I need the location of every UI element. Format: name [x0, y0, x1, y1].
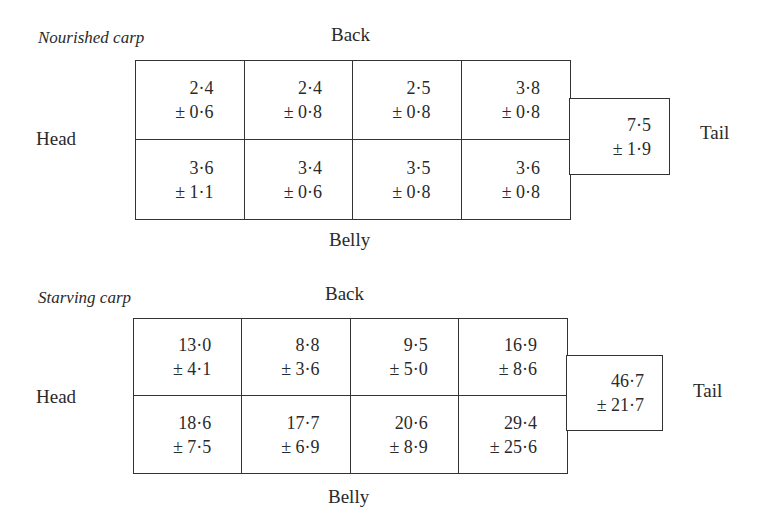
grid-cell: 8·8± 3·6 [242, 319, 350, 396]
grid-cell: 18·6± 7·5 [134, 396, 242, 473]
tail-label: Tail [693, 380, 722, 402]
back-label: Back [331, 24, 370, 46]
grid-cell: 2·4± 0·8 [245, 61, 354, 140]
tail-cell: 7·5± 1·9 [569, 98, 670, 175]
head-label: Head [36, 128, 76, 150]
head-label: Head [36, 386, 76, 408]
body-grid: 13·0± 4·1 8·8± 3·6 9·5± 5·0 16·9± 8·6 18… [133, 318, 568, 474]
tail-cell: 46·7± 21·7 [566, 355, 663, 431]
grid-cell: 13·0± 4·1 [134, 319, 242, 396]
belly-label: Belly [328, 486, 369, 508]
back-label: Back [325, 283, 364, 305]
tail-label: Tail [700, 122, 729, 144]
grid-cell: 9·5± 5·0 [351, 319, 459, 396]
grid-cell: 29·4± 25·6 [459, 396, 567, 473]
grid-cell: 3·6± 1·1 [136, 140, 245, 219]
grid-cell: 16·9± 8·6 [459, 319, 567, 396]
body-grid: 2·4± 0·6 2·4± 0·8 2·5± 0·8 3·8± 0·8 3·6±… [135, 60, 571, 220]
grid-cell: 3·8± 0·8 [462, 61, 571, 140]
grid-cell: 17·7± 6·9 [242, 396, 350, 473]
grid-cell: 3·6± 0·8 [462, 140, 571, 219]
grid-cell: 2·5± 0·8 [353, 61, 462, 140]
grid-cell: 3·4± 0·6 [245, 140, 354, 219]
belly-label: Belly [329, 229, 370, 251]
grid-cell: 3·5± 0·8 [353, 140, 462, 219]
grid-cell: 2·4± 0·6 [136, 61, 245, 140]
panel-title: Nourished carp [38, 28, 144, 48]
grid-cell: 20·6± 8·9 [351, 396, 459, 473]
panel-title: Starving carp [38, 288, 131, 308]
